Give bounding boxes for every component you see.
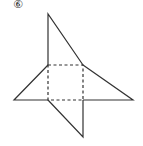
right-triangle — [83, 65, 133, 100]
left-triangle — [14, 65, 48, 100]
bottom-triangle — [48, 100, 83, 137]
net-diagram — [0, 0, 143, 146]
top-triangle — [48, 14, 83, 65]
center-square — [48, 65, 83, 100]
